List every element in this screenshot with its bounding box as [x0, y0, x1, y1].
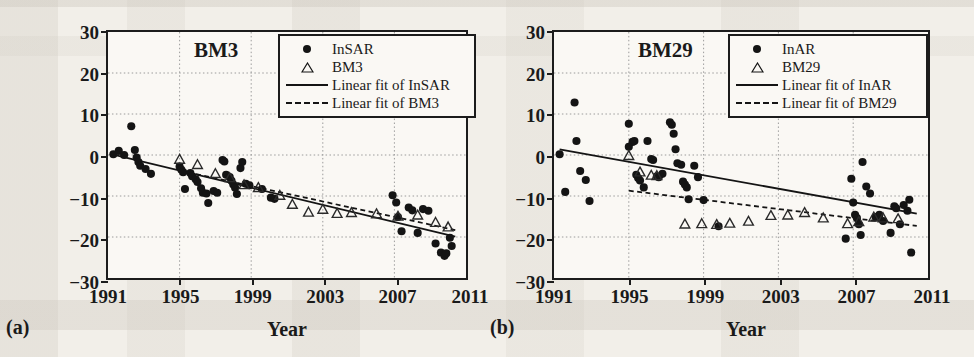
legend-row-inar: InAR: [734, 40, 919, 58]
panel-a: Deformation (mm) BM3 InSAR BM3: [0, 0, 487, 357]
x-tick-mark: [179, 278, 181, 285]
legend-row-bm29: BM29: [734, 58, 919, 76]
legend-label-fit-bm29: Linear fit of BM29: [782, 96, 897, 111]
y-tick-mark: [547, 156, 554, 158]
legend-row-bm3: BM3: [284, 58, 467, 76]
legend-row-fit-insar: Linear fit of InSAR: [284, 76, 467, 94]
plot-area-b: BM29 InAR BM29 Linear fit of InAR: [552, 30, 930, 280]
x-tick-label: 1991: [535, 278, 573, 306]
legend-label-insar: InSAR: [332, 42, 374, 57]
panel-tag-a: (a): [6, 316, 29, 339]
figure-two-panel-deformation-chart: Deformation (mm) BM3 InSAR BM3: [0, 0, 974, 357]
legend-row-fit-inar: Linear fit of InAR: [734, 76, 919, 94]
triangle-marker-icon: [284, 62, 330, 73]
x-tick-label: 1991: [89, 278, 127, 306]
legend-row-insar: InSAR: [284, 40, 467, 58]
legend-label-fit-bm3: Linear fit of BM3: [332, 96, 439, 111]
y-tick-mark: [547, 114, 554, 116]
y-tick-mark: [547, 198, 554, 200]
triangle-marker-icon: [734, 62, 780, 73]
x-tick-mark: [324, 278, 326, 285]
solid-line-icon: [734, 84, 780, 86]
y-tick-mark: [547, 239, 554, 241]
legend-label-fit-inar: Linear fit of InAR: [782, 78, 892, 93]
y-tick-mark: [101, 239, 108, 241]
panel-a-title: BM3: [194, 38, 238, 63]
legend-b: InAR BM29 Linear fit of InAR Linear fit …: [728, 34, 928, 118]
x-tick-mark: [855, 278, 857, 285]
legend-label-fit-insar: Linear fit of InSAR: [332, 78, 450, 93]
x-tick-mark: [780, 278, 782, 285]
y-tick-mark: [101, 73, 108, 75]
circle-marker-icon: [734, 45, 780, 53]
circle-marker-icon: [284, 45, 330, 53]
solid-line-icon: [284, 84, 330, 86]
y-tick-mark: [547, 73, 554, 75]
legend-a: InSAR BM3 Linear fit of InSAR Linear fit…: [278, 34, 476, 118]
x-tick-label: 2011: [452, 278, 489, 306]
panel-b: Deformation (mm) BM29 InAR BM29: [487, 0, 974, 357]
y-tick-mark: [101, 156, 108, 158]
legend-label-bm29: BM29: [782, 60, 820, 75]
legend-row-fit-bm3: Linear fit of BM3: [284, 94, 467, 112]
x-tick-mark: [704, 278, 706, 285]
panel-b-title: BM29: [638, 38, 693, 63]
legend-row-fit-bm29: Linear fit of BM29: [734, 94, 919, 112]
x-tick-mark: [397, 278, 399, 285]
legend-label-bm3: BM3: [332, 60, 363, 75]
y-tick-mark: [101, 31, 108, 33]
y-tick-mark: [101, 198, 108, 200]
x-axis-label: Year: [646, 318, 846, 341]
y-tick-mark: [101, 114, 108, 116]
panel-tag-b: (b): [490, 316, 514, 339]
y-tick-mark: [547, 31, 554, 33]
x-tick-mark: [252, 278, 254, 285]
x-tick-mark: [629, 278, 631, 285]
plot-area-a: BM3 InSAR BM3 Linear fit of InSAR: [106, 30, 468, 280]
legend-label-inar: InAR: [782, 42, 815, 57]
x-axis-label: Year: [187, 318, 387, 341]
dashed-line-icon: [284, 102, 330, 104]
dashed-line-icon: [734, 102, 780, 104]
x-tick-label: 2011: [914, 278, 951, 306]
